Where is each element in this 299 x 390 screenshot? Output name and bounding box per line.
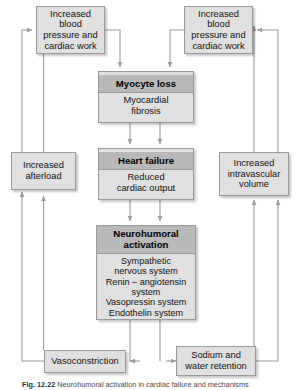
node-label: Sympathetic nervous system Renin – angio…: [97, 254, 195, 320]
wire-bpright-to-myocyte: [170, 30, 184, 67]
node-increased-bp-right: Increased blood pressure and cardiac wor…: [184, 6, 253, 54]
flowchart-diagram: Increased blood pressure and cardiac wor…: [0, 0, 299, 390]
node-label: Sodium and water retention: [177, 348, 255, 373]
node-label: Increased afterload: [12, 158, 75, 183]
node-label: Increased blood pressure and cardiac wor…: [37, 7, 104, 53]
figure-caption-label: Fig. 12.22: [22, 380, 55, 389]
node-header: Myocyte loss: [99, 75, 193, 93]
wire-vaso-to-afterload: [22, 194, 44, 361]
node-neurohumoral-activation: Neurohumoral activation Sympathetic nerv…: [96, 225, 196, 320]
node-label: Increased intravascular volume: [220, 156, 288, 192]
node-increased-intravascular-volume: Increased intravascular volume: [219, 152, 289, 196]
node-sodium-water-retention: Sodium and water retention: [176, 346, 256, 376]
node-myocyte-loss: Myocyte loss Myocardial fibrosis: [98, 71, 194, 123]
wire-neuro-to-vaso: [130, 320, 131, 361]
node-heart-failure: Heart failure Reduced cardiac output: [98, 148, 194, 200]
figure-caption: Fig. 12.22 Neurohumoral activation in ca…: [22, 381, 280, 389]
node-label: Increased blood pressure and cardiac wor…: [185, 7, 252, 53]
node-increased-afterload: Increased afterload: [11, 152, 76, 190]
node-label: Reduced cardiac output: [99, 170, 193, 195]
node-label: Myocardial fibrosis: [99, 93, 193, 118]
node-header: Neurohumoral activation: [97, 225, 195, 254]
node-label: Vasoconstriction: [45, 354, 125, 369]
wire-sodium-to-volume: [256, 200, 278, 361]
figure-caption-text: Neurohumoral activation in cardiac failu…: [57, 380, 248, 389]
node-vasoconstriction: Vasoconstriction: [44, 350, 126, 373]
node-header: Heart failure: [99, 152, 193, 170]
wire-bpleft-to-myocyte: [105, 30, 120, 67]
node-increased-bp-left: Increased blood pressure and cardiac wor…: [36, 6, 105, 54]
